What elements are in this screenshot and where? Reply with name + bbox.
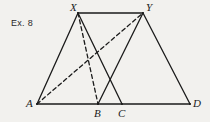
segment-BY	[98, 13, 143, 104]
segment-layer	[37, 13, 190, 104]
vertex-point-a	[36, 103, 38, 105]
figure-caption: Ex. 8	[11, 19, 33, 28]
vertex-label-b: B	[94, 108, 101, 119]
segment-XB	[78, 13, 98, 104]
vertex-point-b	[97, 103, 99, 105]
segment-AY	[37, 13, 143, 104]
vertex-label-d: D	[193, 98, 201, 109]
vertex-label-a: A	[26, 98, 33, 109]
vertex-point-y	[142, 12, 144, 14]
vertex-label-c: C	[118, 108, 125, 119]
segment-XC	[78, 13, 122, 104]
vertex-point-d	[189, 103, 191, 105]
vertex-point-x	[77, 12, 79, 14]
segment-YD	[143, 13, 190, 104]
vertex-label-y: Y	[146, 2, 152, 13]
vertex-label-x: X	[70, 2, 77, 13]
vertex-point-c	[121, 103, 123, 105]
geometry-figure: Ex. 8 ABCDXY	[0, 0, 210, 122]
vertex-layer	[36, 12, 191, 105]
segment-AX	[37, 13, 78, 104]
